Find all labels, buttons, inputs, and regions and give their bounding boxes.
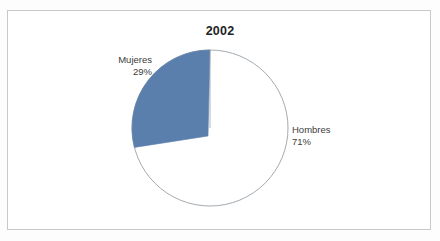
pie-label-mujeres-name: Mujeres [118,54,152,65]
pie-label-hombres-name: Hombres [292,124,331,135]
pie-label-mujeres: Mujeres 29% [60,54,152,77]
pie-label-mujeres-percent: 29% [60,66,152,78]
pie-chart-graphic [0,0,440,241]
chart-root: 2002 Mujeres 29% Hombres 71% [0,0,440,241]
pie-label-hombres-percent: 71% [292,136,392,148]
pie-label-hombres: Hombres 71% [292,124,392,147]
